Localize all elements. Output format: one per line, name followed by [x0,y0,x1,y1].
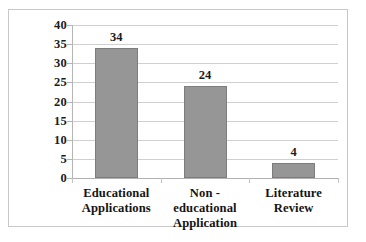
bar[interactable] [95,48,138,178]
y-axis-tick-label: 15 [13,114,67,127]
y-axis-tick-mark [67,25,72,26]
y-axis-tick-label: 0 [13,172,67,185]
bar[interactable] [272,163,315,178]
category-label-line: Review [249,201,338,216]
gridline [72,25,338,26]
category-axis-labels: EducationalApplicationsNon -educationalA… [72,186,338,226]
gridline [72,178,338,179]
bar-value-label: 24 [175,69,235,82]
y-axis-tick-mark [67,140,72,141]
y-axis-tick-mark [67,44,72,45]
category-tick-mark [161,178,162,183]
y-axis-tick-label: 25 [13,76,67,89]
y-axis-tick-mark [67,159,72,160]
category-tick-mark [338,178,339,183]
category-tick-mark [249,178,250,183]
y-axis-tick-mark [67,82,72,83]
bar-value-label: 34 [86,31,146,44]
category-label-line: Non -educational [173,186,236,215]
chart-frame: 4035302520151050 34244 EducationalApplic… [8,9,348,227]
y-axis-ticks: 4035302520151050 [9,25,67,178]
bar[interactable] [184,86,227,178]
y-axis-tick-mark [67,121,72,122]
category-label-line: Literature [265,186,322,200]
gridline [72,44,338,45]
category-axis-label: LiteratureReview [249,186,338,216]
y-axis-tick-label: 35 [13,38,67,51]
y-axis-line [72,25,73,179]
y-axis-tick-label: 40 [13,19,67,32]
y-axis-tick-mark [67,63,72,64]
y-axis-tick-label: 5 [13,153,67,166]
category-axis-label: Non -educationalApplication [161,186,250,231]
y-axis-tick-label: 10 [13,134,67,147]
y-axis-tick-label: 30 [13,57,67,70]
category-tick-mark [72,178,73,183]
category-axis-label: EducationalApplications [72,186,161,216]
bar-value-label: 4 [264,146,324,159]
category-label-line: Educational [83,186,149,200]
category-label-line: Application [161,216,250,231]
y-axis-tick-mark [67,102,72,103]
category-label-line: Applications [72,201,161,216]
y-axis-tick-label: 20 [13,95,67,108]
